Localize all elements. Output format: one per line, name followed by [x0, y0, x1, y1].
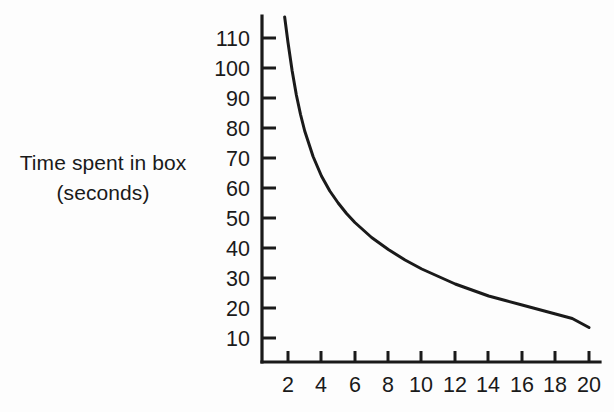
y-axis-tick-labels: 110100908070605040302010 [214, 27, 250, 351]
x-axis-tick-labels: 2468101214161820 [282, 373, 601, 397]
x-axis-ticks [288, 351, 589, 362]
axes-group [262, 16, 600, 362]
x-tick-label-16: 16 [510, 373, 534, 397]
y-tick-label-10: 10 [226, 327, 250, 351]
y-axis-title-line1: Time spent in box [20, 151, 187, 174]
data-curve-series-1 [285, 17, 589, 328]
x-tick-label-20: 20 [577, 373, 601, 397]
x-tick-label-6: 6 [349, 373, 361, 397]
y-axis-title-line2: (seconds) [8, 178, 198, 208]
x-tick-label-10: 10 [409, 373, 433, 397]
y-axis-title: Time spent in box (seconds) [8, 148, 198, 208]
y-tick-label-40: 40 [226, 237, 250, 261]
x-tick-label-2: 2 [282, 373, 294, 397]
x-tick-label-12: 12 [443, 373, 467, 397]
y-tick-label-70: 70 [226, 147, 250, 171]
y-tick-label-20: 20 [226, 297, 250, 321]
y-tick-label-100: 100 [214, 57, 250, 81]
y-tick-label-60: 60 [226, 177, 250, 201]
y-tick-label-90: 90 [226, 87, 250, 111]
y-tick-label-80: 80 [226, 117, 250, 141]
x-tick-label-4: 4 [315, 373, 327, 397]
x-tick-label-18: 18 [543, 373, 567, 397]
y-tick-label-30: 30 [226, 267, 250, 291]
y-tick-label-50: 50 [226, 207, 250, 231]
y-axis-ticks [262, 38, 276, 338]
chart-figure: Time spent in box (seconds) 110100908070… [0, 0, 614, 412]
x-tick-label-14: 14 [476, 373, 500, 397]
y-tick-label-110: 110 [216, 27, 250, 51]
x-tick-label-8: 8 [382, 373, 394, 397]
